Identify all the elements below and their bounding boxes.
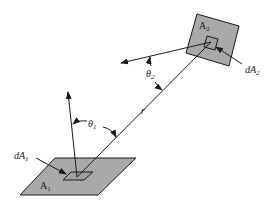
theta1-arc-right [103,127,116,137]
radiation-view-factor-diagram: A2 dA2 θ2 θ1 r dA1 A1 [0,0,280,208]
theta1-arc-left [73,121,87,124]
label-theta1: θ1 [88,118,96,131]
label-theta2: θ2 [146,68,155,81]
label-da2: dA2 [245,64,260,77]
label-r: r [141,105,145,116]
label-da1: dA1 [14,150,29,163]
theta2-arc-bottom [155,82,162,90]
theta2-arc-top [150,57,151,66]
